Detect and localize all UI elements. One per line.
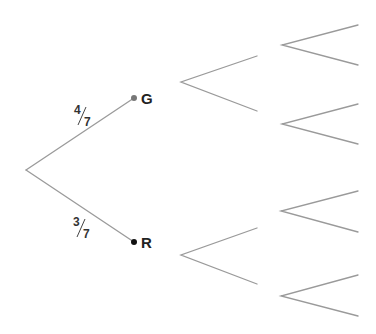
node-r-dot (131, 239, 137, 245)
level3-branch-pair (282, 25, 358, 65)
level3-branch-pair (281, 275, 358, 316)
level3-branches (281, 25, 358, 316)
level2-branch-pair (181, 228, 257, 284)
node-g-dot (131, 95, 137, 101)
node-r-label: R (141, 234, 152, 251)
level2-branches (181, 56, 257, 284)
level3-branch-pair (281, 191, 358, 232)
fraction-denominator: 7 (83, 227, 90, 241)
probability-label-r: 3 7 (73, 215, 90, 241)
level3-branch-pair (282, 104, 358, 144)
fraction-denominator: 7 (84, 115, 91, 129)
probability-tree-diagram: G R 4 7 3 7 (0, 0, 376, 334)
probability-label-g: 4 7 (74, 103, 91, 129)
level2-branch-pair (181, 56, 257, 111)
fraction-numerator: 4 (74, 103, 81, 117)
fraction-numerator: 3 (73, 215, 80, 229)
node-g-label: G (141, 90, 153, 107)
